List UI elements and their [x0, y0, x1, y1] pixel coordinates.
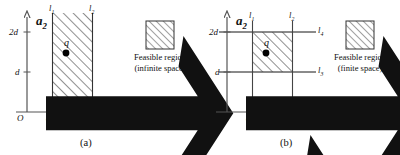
dimension-label-d: d — [69, 116, 74, 126]
panel-b: a 2 a 1 O 2d d d 2d 3d l1 l2 — [200, 0, 400, 155]
figure-feasible-regions: a 2 a 1 O 2d d d 2d 3d l1 l2 — [0, 0, 400, 155]
legend-subtitle: (infinite space) — [119, 64, 201, 73]
y-axis-label: a 2 — [36, 14, 47, 30]
legend-subtitle: (finite space) — [319, 64, 400, 73]
boundary-line-label-l4: l4 — [318, 26, 323, 37]
x-tick-label-2d: 2d — [294, 114, 303, 123]
x-tick-label-d: d — [246, 114, 251, 123]
point-q-label: q — [64, 38, 69, 48]
x-tick-label-2d: 2d — [94, 114, 103, 123]
boundary-line-label-l1: l1 — [249, 11, 254, 22]
x-tick-label-3d: 3d — [328, 114, 337, 123]
x-tick-label-d: d — [46, 114, 51, 123]
y-tick-label-2d: 2d — [209, 28, 218, 37]
boundary-line-label-l2: l2 — [289, 11, 294, 22]
y-tick-label-d: d — [15, 68, 20, 77]
panel-caption-b: (b) — [280, 138, 292, 149]
boundary-line-label-l1: l1 — [49, 4, 54, 15]
panel-a: a 2 a 1 O 2d d d 2d 3d l1 l2 — [0, 0, 200, 155]
point-q-label: q — [264, 38, 269, 48]
x-axis-label: a 1 — [363, 113, 374, 129]
boundary-line-label-l2: l2 — [89, 4, 94, 15]
panel-caption-a: (a) — [80, 138, 92, 149]
legend-title: Feasible region — [119, 53, 201, 62]
y-axis-label: a 2 — [236, 14, 247, 30]
origin-label: O — [17, 114, 24, 123]
origin-label: O — [217, 114, 224, 123]
y-tick-label-d: d — [215, 68, 220, 77]
dimension-label-d: d — [269, 116, 274, 126]
vector-arrow-icon — [363, 113, 400, 155]
x-tick-label-3d: 3d — [128, 114, 137, 123]
x-axis-label: a 1 — [163, 113, 174, 129]
legend-title: Feasible region — [319, 53, 400, 62]
y-tick-label-2d: 2d — [9, 28, 18, 37]
